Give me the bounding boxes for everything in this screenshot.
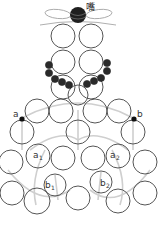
label-a2: a 2 bbox=[110, 150, 120, 161]
ring-bead bbox=[106, 189, 130, 213]
ring-bead bbox=[49, 99, 73, 123]
beading-diagram: 嘴 bbox=[0, 0, 159, 229]
point-a-dot bbox=[19, 116, 24, 121]
point-b-label: b bbox=[137, 109, 143, 119]
column-bead bbox=[79, 24, 103, 48]
column-bead bbox=[51, 24, 75, 48]
column-beads bbox=[51, 24, 103, 105]
dark-bead bbox=[83, 80, 90, 87]
dark-bead bbox=[58, 78, 65, 85]
dark-bead bbox=[65, 81, 72, 88]
ring-bead bbox=[0, 150, 23, 174]
ring-bead bbox=[66, 186, 90, 210]
label-a1: a 1 bbox=[33, 150, 43, 161]
point-a-label: a bbox=[13, 109, 19, 119]
dark-bead bbox=[103, 67, 110, 74]
column-bead bbox=[51, 50, 75, 74]
dark-bead bbox=[45, 69, 52, 76]
mouth-label: 嘴 bbox=[86, 2, 95, 12]
point-b: b bbox=[131, 109, 143, 122]
ring-bead bbox=[133, 150, 157, 174]
label-b2: b 2 bbox=[100, 178, 110, 189]
dark-bead bbox=[51, 75, 58, 82]
point-a: a bbox=[13, 109, 25, 122]
dark-bead bbox=[45, 61, 52, 68]
label-a2-base: a bbox=[110, 150, 116, 160]
dark-bead bbox=[103, 59, 110, 66]
label-a1-base: a bbox=[33, 150, 39, 160]
ring-bead bbox=[51, 146, 75, 170]
label-a1-sub: 1 bbox=[39, 154, 43, 161]
ring-bead bbox=[83, 99, 107, 123]
dark-bead bbox=[90, 77, 97, 84]
ring-bead bbox=[133, 181, 157, 205]
top-knot bbox=[70, 7, 86, 23]
label-b1-sub: 1 bbox=[51, 184, 55, 191]
ring-bead bbox=[24, 188, 50, 214]
label-b1: b 1 bbox=[45, 180, 55, 191]
column-bead bbox=[79, 50, 103, 74]
dark-bead-arc bbox=[45, 59, 110, 88]
ring-bead bbox=[81, 146, 105, 170]
point-b-dot bbox=[131, 116, 136, 121]
ring-bead bbox=[0, 181, 24, 205]
dark-bead bbox=[97, 74, 104, 81]
label-b2-sub: 2 bbox=[106, 182, 110, 189]
label-a2-sub: 2 bbox=[116, 154, 120, 161]
top-knot-bead bbox=[70, 7, 86, 23]
